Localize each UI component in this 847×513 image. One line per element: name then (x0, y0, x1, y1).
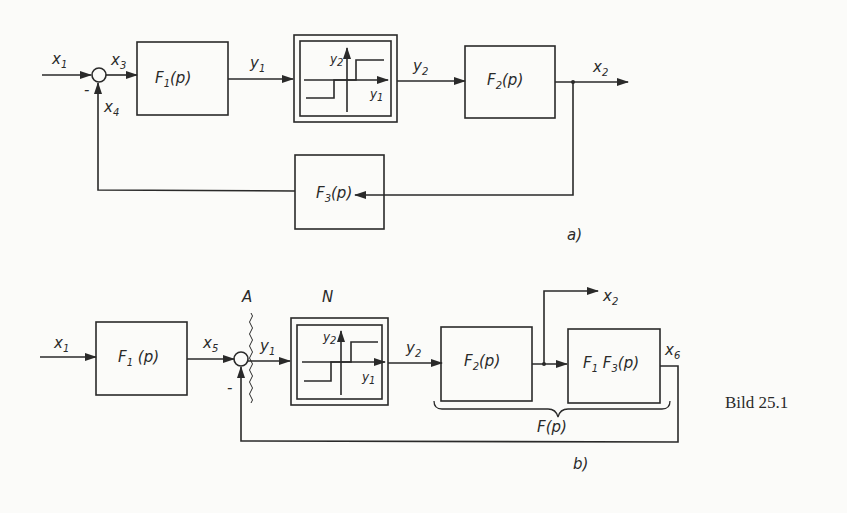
nl-axis-y2-a: y2 (329, 52, 343, 68)
signal-label-x1-b: x1 (53, 334, 69, 354)
brace-label-f-p: F(p) (537, 418, 567, 436)
panel-label-a: a) (567, 226, 582, 244)
nl-axis-y2-b: y2 (322, 330, 336, 346)
cut-line-a (250, 313, 253, 403)
block-nonlinear-a (294, 35, 397, 122)
cut-label-a: A (241, 288, 252, 306)
signal-label-x3: x3 (110, 51, 126, 71)
figure-caption: Bild 25.1 (725, 393, 788, 412)
minus-sign-a: - (84, 81, 89, 99)
block-f1-a-label: F1(p) (155, 69, 191, 89)
block-f2-b-label: F2(p) (464, 352, 500, 372)
signal-label-x5: x5 (202, 334, 218, 354)
signal-label-y2-a: y2 (412, 57, 428, 77)
block-f2-a-label: F2(p) (487, 71, 523, 91)
signal-label-y2-b: y2 (405, 339, 421, 359)
summing-junction-a (92, 68, 106, 82)
signal-label-x1: x1 (51, 50, 67, 70)
signal-label-x6: x6 (664, 341, 680, 361)
nonlinear-label-n: N (322, 288, 333, 306)
block-diagram-figure: x1 - x3 F1(p) y1 y2 y1 y2 F2(p) x2 F3(p) (0, 0, 847, 513)
nl-axis-y1-a: y1 (369, 87, 383, 103)
signal-label-y1-a: y1 (249, 54, 265, 74)
minus-sign-b: - (227, 379, 232, 397)
block-f1-b-label: F1 (p) (118, 348, 159, 368)
panel-label-b: b) (573, 455, 588, 473)
block-f3-a-label: F3(p) (316, 184, 352, 204)
signal-label-x2-b: x2 (602, 287, 618, 307)
signal-label-x4: x4 (103, 98, 119, 118)
summing-junction-b (234, 352, 248, 366)
block-f1f3-b-label: F1 F3(p) (583, 354, 639, 374)
panel-a: x1 - x3 F1(p) y1 y2 y1 y2 F2(p) x2 F3(p) (42, 35, 628, 244)
panel-b: x1 F1 (p) x5 - A y1 N y2 y1 y2 F2(p) x2 … (40, 287, 680, 473)
signal-label-y1-b: y1 (259, 337, 275, 357)
nl-axis-y1-b: y1 (361, 370, 375, 386)
signal-label-x2-a: x2 (592, 58, 608, 78)
